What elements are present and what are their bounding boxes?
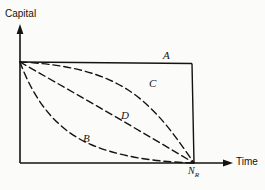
chart-canvas	[0, 0, 265, 190]
curve-label-c: C	[149, 78, 156, 89]
x-axis-arrow-icon	[223, 160, 233, 167]
y-axis	[17, 24, 24, 163]
x-axis-label: Time	[236, 157, 258, 167]
curve-label-b: B	[83, 133, 90, 144]
curve-label-a: A	[163, 50, 170, 61]
curve-d	[20, 62, 194, 163]
x-axis-tick-nr-base: N	[188, 165, 195, 176]
y-axis-label: Capital	[5, 9, 36, 19]
capital-vs-time-figure: Capital Time A C D B NR	[0, 0, 265, 190]
curve-label-d: D	[121, 110, 129, 121]
x-axis-tick-nr-subscript: R	[195, 171, 199, 179]
y-axis-arrow-icon	[17, 24, 24, 34]
x-axis-tick-nr: NR	[188, 166, 199, 179]
x-axis	[20, 160, 233, 167]
